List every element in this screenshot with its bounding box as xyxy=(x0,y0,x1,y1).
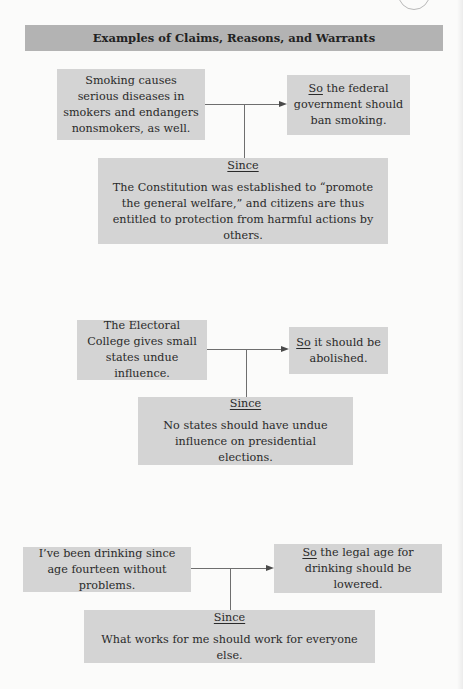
section-title: Examples of Claims, Reasons, and Warrant… xyxy=(25,25,443,51)
claim-text: So the federal government should ban smo… xyxy=(293,81,404,129)
connector-line xyxy=(244,104,245,158)
claim-prefix: So xyxy=(296,336,310,349)
claim-rest: it should be abolished. xyxy=(309,336,380,365)
reason-text: Smoking causes serious diseases in smoke… xyxy=(63,73,199,137)
warrant-box: Since No states should have undue influe… xyxy=(138,397,353,465)
claim-text: So the legal age for drinking should be … xyxy=(280,545,436,593)
warrant-box: Since What works for me should work for … xyxy=(84,610,375,663)
claim-prefix: So xyxy=(309,82,323,95)
warrant-box: Since The Constitution was established t… xyxy=(98,158,388,244)
section-title-text: Examples of Claims, Reasons, and Warrant… xyxy=(93,31,375,45)
warrant-label: Since xyxy=(230,396,261,412)
reason-text: I’ve been drinking since age fourteen wi… xyxy=(29,546,185,594)
connector-line xyxy=(230,568,231,610)
warrant-text: The Constitution was established to “pro… xyxy=(112,180,374,244)
reason-text: The Electoral College gives small states… xyxy=(83,318,201,382)
claim-text: So it should be abolished. xyxy=(295,335,382,367)
arrow-icon xyxy=(281,346,289,352)
warrant-label: Since xyxy=(214,610,245,626)
claim-rest: the legal age for drinking should be low… xyxy=(305,546,414,591)
warrant-text: What works for me should work for everyo… xyxy=(90,632,369,664)
claim-box: So the legal age for drinking should be … xyxy=(274,544,442,593)
reason-box: Smoking causes serious diseases in smoke… xyxy=(57,69,205,140)
connector-line xyxy=(191,568,266,569)
page-number-circle xyxy=(398,0,430,10)
claim-box: So the federal government should ban smo… xyxy=(287,75,410,135)
reason-box: The Electoral College gives small states… xyxy=(77,320,207,380)
connector-line xyxy=(207,349,281,350)
arrow-icon xyxy=(266,565,274,571)
connector-line xyxy=(205,104,279,105)
reason-box: I’ve been drinking since age fourteen wi… xyxy=(23,547,191,592)
claim-box: So it should be abolished. xyxy=(289,327,388,374)
warrant-label: Since xyxy=(227,158,258,174)
arrow-icon xyxy=(279,101,287,107)
connector-line xyxy=(246,349,247,397)
claim-prefix: So xyxy=(302,546,316,559)
page-edge-shadow xyxy=(457,0,463,689)
warrant-text: No states should have undue influence on… xyxy=(148,418,343,466)
